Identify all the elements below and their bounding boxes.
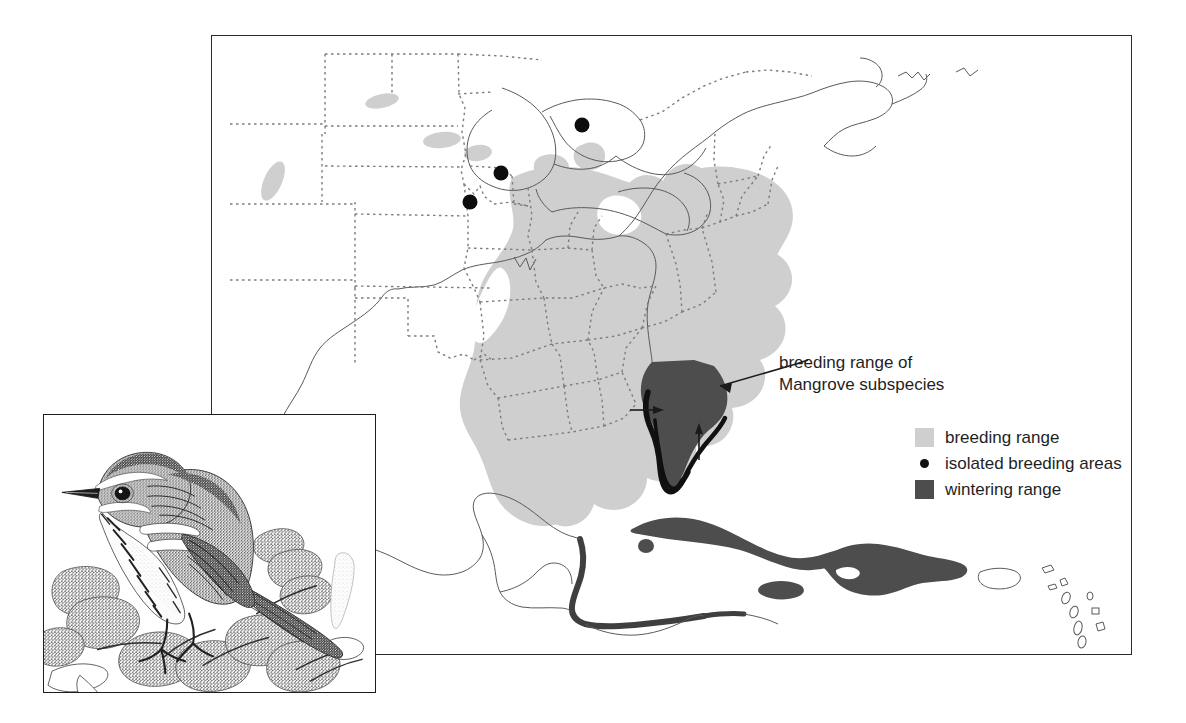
legend-dot-icon — [915, 454, 934, 473]
legend-item-wintering: wintering range — [915, 479, 1165, 500]
legend-label-wintering: wintering range — [945, 480, 1061, 499]
bird-illustration-panel — [43, 414, 376, 693]
breeding-patch-ontario-east — [422, 130, 461, 150]
legend-label-breeding: breeding range — [945, 428, 1059, 447]
legend-swatch-wintering — [915, 480, 934, 499]
legend-item-isolated: isolated breeding areas — [915, 453, 1165, 474]
wintering-isla-juventud — [638, 539, 654, 553]
wintering-central-america — [572, 539, 704, 626]
wintering-cuba — [631, 517, 852, 570]
legend-item-breeding: breeding range — [915, 427, 1165, 448]
isolated-dot-nebraska — [463, 195, 478, 210]
isolated-dot-iowa — [494, 166, 509, 181]
mangrove-annotation: breeding range of Mangrove subspecies — [779, 352, 1009, 395]
legend-swatch-breeding — [915, 428, 934, 447]
bird-illustration — [44, 415, 375, 692]
bird-eye — [115, 487, 130, 500]
annotation-line-1: breeding range of — [779, 352, 1009, 374]
map-legend: breeding range isolated breeding areas w… — [915, 427, 1165, 505]
legend-label-isolated: isolated breeding areas — [945, 454, 1122, 473]
wintering-jamaica — [758, 581, 804, 599]
breeding-patch-wisconsin — [256, 158, 290, 204]
breeding-patch-ontario — [364, 91, 400, 112]
annotation-line-2: Mangrove subspecies — [779, 374, 1009, 396]
range-map-figure: breeding range of Mangrove subspecies br… — [0, 0, 1186, 723]
isolated-dot-michigan — [575, 118, 590, 133]
